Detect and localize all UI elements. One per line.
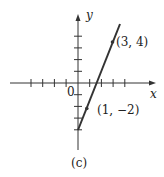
x-axis-arrow-icon (149, 81, 156, 86)
point-3-4-label: (3, 4) (116, 36, 148, 48)
graph-figure: y x 0 (3, 4) (1, −2) (c) (0, 0, 164, 177)
point-1-neg2-label: (1, −2) (97, 104, 139, 116)
origin-label: 0 (67, 86, 75, 98)
y-axis-arrow-icon (76, 14, 81, 21)
y-axis-label: y (86, 9, 93, 21)
x-axis-label: x (150, 88, 157, 100)
point-1-neg2 (85, 107, 89, 111)
coordinate-plane (0, 0, 164, 177)
point-3-4 (111, 40, 115, 44)
figure-caption: (c) (71, 157, 87, 169)
